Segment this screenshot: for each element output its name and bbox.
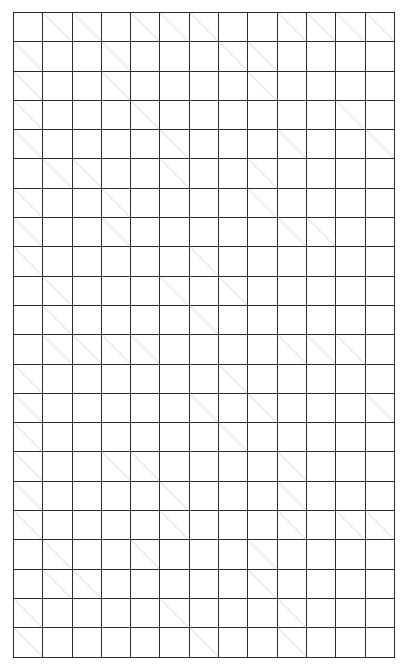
- entry-cell[interactable]: [131, 276, 160, 305]
- entry-cell[interactable]: [219, 247, 248, 276]
- entry-cell[interactable]: [131, 42, 160, 71]
- entry-cell[interactable]: [189, 364, 218, 393]
- entry-cell[interactable]: [248, 452, 277, 481]
- entry-cell[interactable]: [101, 481, 130, 510]
- entry-cell[interactable]: [219, 218, 248, 247]
- entry-cell[interactable]: [131, 423, 160, 452]
- entry-cell[interactable]: [189, 511, 218, 540]
- entry-cell[interactable]: [72, 130, 101, 159]
- entry-cell[interactable]: [336, 42, 365, 71]
- entry-cell[interactable]: [101, 159, 130, 188]
- entry-cell[interactable]: [101, 276, 130, 305]
- entry-cell[interactable]: [72, 218, 101, 247]
- entry-cell[interactable]: [219, 159, 248, 188]
- entry-cell[interactable]: [72, 71, 101, 100]
- entry-cell[interactable]: [160, 218, 189, 247]
- entry-cell[interactable]: [219, 452, 248, 481]
- entry-cell[interactable]: [336, 247, 365, 276]
- entry-cell[interactable]: [101, 598, 130, 627]
- entry-cell[interactable]: [160, 42, 189, 71]
- entry-cell[interactable]: [306, 130, 335, 159]
- entry-cell[interactable]: [336, 423, 365, 452]
- entry-cell[interactable]: [277, 364, 306, 393]
- entry-cell[interactable]: [189, 188, 218, 217]
- entry-cell[interactable]: [43, 364, 72, 393]
- entry-cell[interactable]: [131, 218, 160, 247]
- entry-cell[interactable]: [131, 247, 160, 276]
- entry-cell[interactable]: [306, 188, 335, 217]
- entry-cell[interactable]: [101, 364, 130, 393]
- entry-cell[interactable]: [248, 130, 277, 159]
- entry-cell[interactable]: [43, 511, 72, 540]
- entry-cell[interactable]: [160, 71, 189, 100]
- entry-cell[interactable]: [43, 218, 72, 247]
- entry-cell[interactable]: [72, 42, 101, 71]
- entry-cell[interactable]: [131, 364, 160, 393]
- entry-cell[interactable]: [43, 188, 72, 217]
- entry-cell[interactable]: [365, 188, 394, 217]
- entry-cell[interactable]: [219, 305, 248, 334]
- entry-cell[interactable]: [306, 364, 335, 393]
- entry-cell[interactable]: [72, 188, 101, 217]
- entry-cell[interactable]: [219, 569, 248, 598]
- entry-cell[interactable]: [277, 188, 306, 217]
- entry-cell[interactable]: [306, 247, 335, 276]
- entry-cell[interactable]: [336, 540, 365, 569]
- entry-cell[interactable]: [219, 100, 248, 129]
- entry-cell[interactable]: [306, 276, 335, 305]
- entry-cell[interactable]: [336, 598, 365, 627]
- entry-cell[interactable]: [306, 71, 335, 100]
- entry-cell[interactable]: [101, 305, 130, 334]
- entry-cell[interactable]: [101, 569, 130, 598]
- entry-cell[interactable]: [365, 452, 394, 481]
- entry-cell[interactable]: [72, 100, 101, 129]
- entry-cell[interactable]: [131, 511, 160, 540]
- entry-cell[interactable]: [131, 598, 160, 627]
- entry-cell[interactable]: [160, 247, 189, 276]
- entry-cell[interactable]: [101, 247, 130, 276]
- entry-cell[interactable]: [131, 188, 160, 217]
- entry-cell[interactable]: [336, 628, 365, 657]
- entry-cell[interactable]: [277, 42, 306, 71]
- entry-cell[interactable]: [365, 159, 394, 188]
- entry-cell[interactable]: [43, 628, 72, 657]
- entry-cell[interactable]: [72, 540, 101, 569]
- entry-cell[interactable]: [365, 218, 394, 247]
- entry-cell[interactable]: [248, 100, 277, 129]
- entry-cell[interactable]: [336, 364, 365, 393]
- entry-cell[interactable]: [72, 393, 101, 422]
- entry-cell[interactable]: [336, 569, 365, 598]
- entry-cell[interactable]: [365, 276, 394, 305]
- entry-cell[interactable]: [365, 540, 394, 569]
- entry-cell[interactable]: [72, 598, 101, 627]
- entry-cell[interactable]: [248, 598, 277, 627]
- entry-cell[interactable]: [189, 130, 218, 159]
- entry-cell[interactable]: [365, 71, 394, 100]
- entry-cell[interactable]: [277, 100, 306, 129]
- entry-cell[interactable]: [248, 276, 277, 305]
- entry-cell[interactable]: [336, 71, 365, 100]
- entry-cell[interactable]: [219, 71, 248, 100]
- entry-cell[interactable]: [365, 569, 394, 598]
- entry-cell[interactable]: [365, 247, 394, 276]
- entry-cell[interactable]: [101, 100, 130, 129]
- entry-cell[interactable]: [160, 452, 189, 481]
- entry-cell[interactable]: [336, 393, 365, 422]
- entry-cell[interactable]: [277, 71, 306, 100]
- entry-cell[interactable]: [72, 452, 101, 481]
- entry-cell[interactable]: [189, 569, 218, 598]
- entry-cell[interactable]: [248, 481, 277, 510]
- entry-cell[interactable]: [160, 364, 189, 393]
- entry-cell[interactable]: [189, 71, 218, 100]
- entry-cell[interactable]: [365, 598, 394, 627]
- entry-cell[interactable]: [72, 305, 101, 334]
- entry-cell[interactable]: [306, 481, 335, 510]
- entry-cell[interactable]: [101, 393, 130, 422]
- entry-cell[interactable]: [336, 481, 365, 510]
- entry-cell[interactable]: [365, 423, 394, 452]
- entry-cell[interactable]: [248, 247, 277, 276]
- entry-cell[interactable]: [248, 364, 277, 393]
- entry-cell[interactable]: [72, 423, 101, 452]
- entry-cell[interactable]: [306, 100, 335, 129]
- entry-cell[interactable]: [189, 100, 218, 129]
